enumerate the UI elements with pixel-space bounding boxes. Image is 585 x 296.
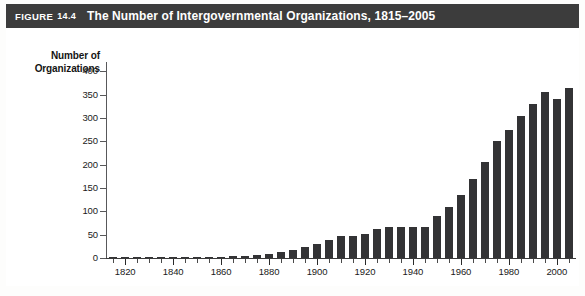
- bar: [361, 234, 369, 258]
- bar: [289, 250, 297, 258]
- x-axis-tick-label: 1900: [297, 266, 337, 277]
- bar: [325, 240, 333, 258]
- x-axis-minor-tick: [281, 259, 282, 263]
- bar: [493, 141, 501, 258]
- bar: [193, 257, 201, 258]
- x-axis-tick-label: 1860: [201, 266, 241, 277]
- bar: [241, 256, 249, 258]
- x-axis-tick-label: 1840: [153, 266, 193, 277]
- bar: [421, 227, 429, 258]
- y-axis-tick: [100, 258, 106, 259]
- x-axis-minor-tick: [449, 259, 450, 263]
- bar: [529, 104, 537, 258]
- bar: [349, 236, 357, 258]
- bar: [469, 179, 477, 258]
- x-axis-minor-tick: [293, 259, 294, 263]
- x-axis-minor-tick: [521, 259, 522, 263]
- x-axis-minor-tick: [497, 259, 498, 263]
- bar: [397, 227, 405, 258]
- bar: [265, 254, 273, 258]
- x-axis-minor-tick: [329, 259, 330, 263]
- x-axis-minor-tick: [389, 259, 390, 263]
- bar: [253, 255, 261, 258]
- bar: [229, 256, 237, 258]
- x-axis-major-tick: [269, 259, 270, 265]
- chart-plot-area: Number of Organizations 0501001502002503…: [6, 28, 579, 286]
- x-axis-major-tick: [413, 259, 414, 265]
- bar: [457, 195, 465, 258]
- x-axis-minor-tick: [437, 259, 438, 263]
- bar: [433, 216, 441, 258]
- x-axis-minor-tick: [197, 259, 198, 263]
- bar: [481, 162, 489, 258]
- x-axis-minor-tick: [137, 259, 138, 263]
- bar: [385, 227, 393, 258]
- x-axis-minor-tick: [161, 259, 162, 263]
- x-axis-minor-tick: [545, 259, 546, 263]
- bar: [409, 227, 417, 258]
- x-axis-minor-tick: [257, 259, 258, 263]
- x-axis-tick-label: 1980: [489, 266, 529, 277]
- x-axis-tick-label: 1820: [105, 266, 145, 277]
- bar: [301, 247, 309, 258]
- x-axis-minor-tick: [341, 259, 342, 263]
- x-axis-major-tick: [509, 259, 510, 265]
- x-axis-minor-tick: [245, 259, 246, 263]
- x-axis-major-tick: [317, 259, 318, 265]
- bar: [565, 88, 573, 258]
- x-axis-minor-tick: [233, 259, 234, 263]
- figure-root: FIGURE 14.4 The Number of Intergovernmen…: [0, 0, 585, 296]
- x-axis-minor-tick: [185, 259, 186, 263]
- bar: [337, 236, 345, 258]
- x-axis-tick-label: 1960: [441, 266, 481, 277]
- bar: [313, 244, 321, 258]
- bar: [541, 92, 549, 258]
- figure-title: The Number of Intergovernmental Organiza…: [87, 9, 435, 23]
- x-axis-minor-tick: [377, 259, 378, 263]
- figure-number: 14.4: [57, 11, 76, 21]
- bar: [121, 257, 129, 258]
- bar: [217, 257, 225, 258]
- x-axis-minor-tick: [425, 259, 426, 263]
- x-axis-minor-tick: [473, 259, 474, 263]
- bar: [145, 257, 153, 258]
- x-axis-major-tick: [125, 259, 126, 265]
- bar: [553, 99, 561, 258]
- x-axis-major-tick: [173, 259, 174, 265]
- figure-title-bar: FIGURE 14.4 The Number of Intergovernmen…: [6, 4, 579, 28]
- bar: [205, 257, 213, 258]
- x-axis-minor-tick: [305, 259, 306, 263]
- x-axis-major-tick: [221, 259, 222, 265]
- x-axis-tick-label: 1920: [345, 266, 385, 277]
- x-axis-tick-label: 1880: [249, 266, 289, 277]
- x-axis-minor-tick: [353, 259, 354, 263]
- x-axis-minor-tick: [149, 259, 150, 263]
- x-axis-minor-tick: [113, 259, 114, 263]
- bar: [109, 257, 117, 258]
- bar: [277, 252, 285, 258]
- x-axis-major-tick: [365, 259, 366, 265]
- x-axis-major-tick: [461, 259, 462, 265]
- x-axis-minor-tick: [401, 259, 402, 263]
- bar: [505, 130, 513, 258]
- x-axis-tick-label: 2000: [537, 266, 577, 277]
- bar: [373, 229, 381, 258]
- figure-label: FIGURE: [15, 11, 53, 22]
- x-axis-minor-tick: [533, 259, 534, 263]
- bar: [157, 257, 165, 258]
- x-axis-major-tick: [557, 259, 558, 265]
- bar: [169, 257, 177, 258]
- bars-layer: [6, 28, 579, 258]
- x-axis-minor-tick: [209, 259, 210, 263]
- x-axis-tick-label: 1940: [393, 266, 433, 277]
- bar: [445, 207, 453, 258]
- x-axis-minor-tick: [569, 259, 570, 263]
- bar: [181, 257, 189, 258]
- bar: [133, 257, 141, 258]
- x-axis-minor-tick: [485, 259, 486, 263]
- bar: [517, 116, 525, 258]
